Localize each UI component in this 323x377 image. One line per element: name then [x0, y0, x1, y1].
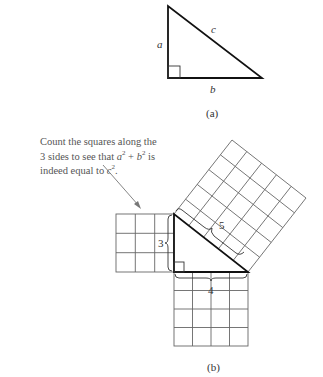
side-a-label: a [157, 38, 163, 50]
caption-line-3: indeed equal to c2. [40, 162, 160, 176]
brace-side-a [165, 215, 172, 271]
caption-text: indeed equal to [40, 164, 107, 175]
side-b-length: 4 [208, 284, 214, 296]
caption-line-1: Count the squares along the [40, 136, 160, 148]
plus-sign: + [125, 150, 136, 161]
pythagorean-diagram: a c b (a) [0, 0, 323, 377]
figure-a-label: (a) [206, 107, 219, 120]
side-a-length: 3 [158, 237, 164, 249]
caption-line-2: 3 sides to see that a2 + b2 is [40, 148, 160, 162]
side-c-length: 5 [219, 219, 225, 231]
side-b-label: b [210, 83, 216, 95]
right-angle-marker [168, 66, 180, 78]
caption-text: . [115, 164, 118, 175]
side-c-label: c [211, 23, 216, 35]
caption-text: 3 sides to see that [40, 150, 117, 161]
figure-b-caption: Count the squares along the 3 sides to s… [40, 136, 160, 176]
figure-b-label: (b) [207, 361, 220, 374]
figure-a-triangle [168, 6, 262, 78]
figure-b-triangle [174, 214, 248, 272]
caption-text: is [145, 150, 155, 161]
